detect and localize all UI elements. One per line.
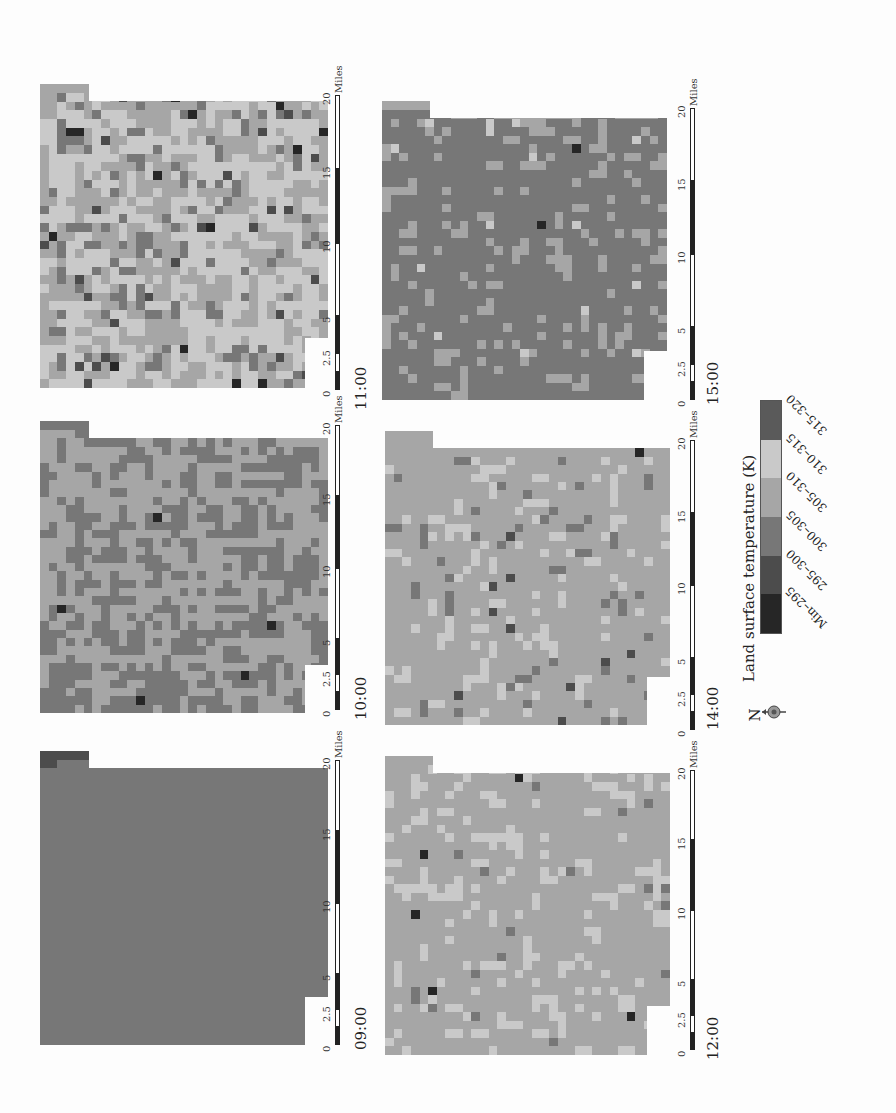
legend-label: 305–310 bbox=[783, 469, 830, 516]
scalebar bbox=[335, 425, 340, 710]
legend-swatch bbox=[761, 517, 781, 556]
boundary-notch bbox=[433, 439, 671, 448]
scalebar-tick: 2.5 bbox=[321, 350, 332, 366]
scalebar-tick: 20 bbox=[321, 92, 332, 105]
scalebar-tick: 2.5 bbox=[676, 361, 687, 377]
scalebar-tick: 0 bbox=[676, 731, 687, 737]
temperature-grid bbox=[385, 440, 670, 725]
scalebar-tick: 5 bbox=[676, 328, 687, 334]
boundary-notch bbox=[89, 759, 329, 768]
time-label: 09:00 bbox=[352, 1007, 370, 1050]
scalebar-tick: 20 bbox=[321, 422, 332, 435]
boundary-notch bbox=[644, 351, 668, 401]
scalebar-unit: Miles bbox=[688, 740, 699, 768]
scalebar-tick: 0 bbox=[676, 1051, 687, 1057]
boundary-notch bbox=[89, 92, 329, 101]
boundary-extension bbox=[40, 84, 89, 93]
boundary-notch bbox=[433, 764, 671, 773]
time-label: 12:00 bbox=[704, 1017, 722, 1060]
scalebar-tick: 0 bbox=[676, 401, 687, 407]
scalebar-tick: 10 bbox=[676, 251, 687, 264]
temperature-grid bbox=[40, 430, 328, 713]
legend: Land surface temperature (K) 315–320310–… bbox=[760, 400, 880, 640]
north-arrow: N bbox=[748, 700, 788, 730]
legend-label: 300–305 bbox=[783, 507, 830, 554]
legend-label: Min–295 bbox=[783, 584, 830, 631]
scalebar-unit: Miles bbox=[688, 410, 699, 438]
scalebar-tick: 15 bbox=[676, 837, 687, 850]
scalebar-tick: 2.5 bbox=[321, 1006, 332, 1022]
scalebar-unit: Miles bbox=[688, 78, 699, 106]
temperature-grid bbox=[385, 765, 670, 1055]
scalebar-tick: 15 bbox=[321, 494, 332, 507]
scalebar-tick: 15 bbox=[321, 829, 332, 842]
scalebar-tick: 0 bbox=[321, 1046, 332, 1052]
scalebar-tick: 20 bbox=[676, 105, 687, 118]
time-label: 11:00 bbox=[352, 367, 370, 410]
legend-swatch bbox=[761, 440, 781, 479]
scalebar-tick: 0 bbox=[321, 711, 332, 717]
time-label: 10:00 bbox=[352, 677, 370, 720]
scalebar-tick: 5 bbox=[321, 974, 332, 980]
boundary-extension bbox=[385, 431, 433, 440]
legend-label: 315–320 bbox=[783, 391, 830, 438]
boundary-extension bbox=[40, 751, 89, 760]
time-label: 15:00 bbox=[704, 362, 722, 405]
scalebar-unit: Miles bbox=[333, 395, 344, 423]
scalebar-tick: 15 bbox=[676, 510, 687, 523]
scalebar bbox=[335, 95, 340, 390]
scalebar-tick: 20 bbox=[676, 767, 687, 780]
temperature-grid bbox=[40, 760, 328, 1045]
scalebar-tick: 10 bbox=[676, 907, 687, 920]
scalebar-tick: 5 bbox=[676, 981, 687, 987]
scalebar-tick: 5 bbox=[676, 658, 687, 664]
scalebar-tick: 10 bbox=[321, 565, 332, 578]
scalebar-tick: 0 bbox=[321, 391, 332, 397]
legend-swatch bbox=[761, 478, 781, 517]
boundary-notch bbox=[430, 109, 668, 118]
scalebar-tick: 10 bbox=[321, 900, 332, 913]
boundary-extension bbox=[385, 756, 433, 765]
boundary-extension bbox=[40, 421, 89, 430]
boundary-extension bbox=[382, 101, 430, 110]
time-label: 14:00 bbox=[704, 687, 722, 730]
legend-swatches bbox=[760, 400, 782, 634]
boundary-notch bbox=[89, 429, 329, 438]
legend-title: Land surface temperature (K) bbox=[740, 455, 758, 682]
scalebar-tick: 15 bbox=[321, 166, 332, 179]
scalebar-unit: Miles bbox=[333, 730, 344, 758]
boundary-notch bbox=[647, 1006, 671, 1056]
compass-icon bbox=[760, 702, 788, 722]
scalebar-tick: 5 bbox=[321, 639, 332, 645]
temperature-grid bbox=[40, 93, 328, 388]
scalebar bbox=[335, 760, 340, 1045]
scalebar-tick: 10 bbox=[676, 582, 687, 595]
scalebar-tick: 10 bbox=[321, 240, 332, 253]
scalebar-tick: 20 bbox=[676, 437, 687, 450]
temperature-grid bbox=[382, 110, 667, 400]
scalebar-tick: 2.5 bbox=[676, 691, 687, 707]
boundary-notch bbox=[647, 677, 671, 726]
scalebar-tick: 5 bbox=[321, 317, 332, 323]
scalebar bbox=[690, 440, 695, 730]
scalebar-tick: 2.5 bbox=[321, 671, 332, 687]
scalebar-tick: 2.5 bbox=[676, 1012, 687, 1028]
legend-swatch bbox=[761, 594, 781, 633]
scalebar-tick: 15 bbox=[676, 178, 687, 191]
scalebar-unit: Miles bbox=[333, 65, 344, 93]
scalebar bbox=[690, 108, 695, 400]
scalebar-tick: 20 bbox=[321, 757, 332, 770]
legend-swatch bbox=[761, 556, 781, 595]
legend-swatch bbox=[761, 401, 781, 440]
scalebar bbox=[690, 770, 695, 1050]
